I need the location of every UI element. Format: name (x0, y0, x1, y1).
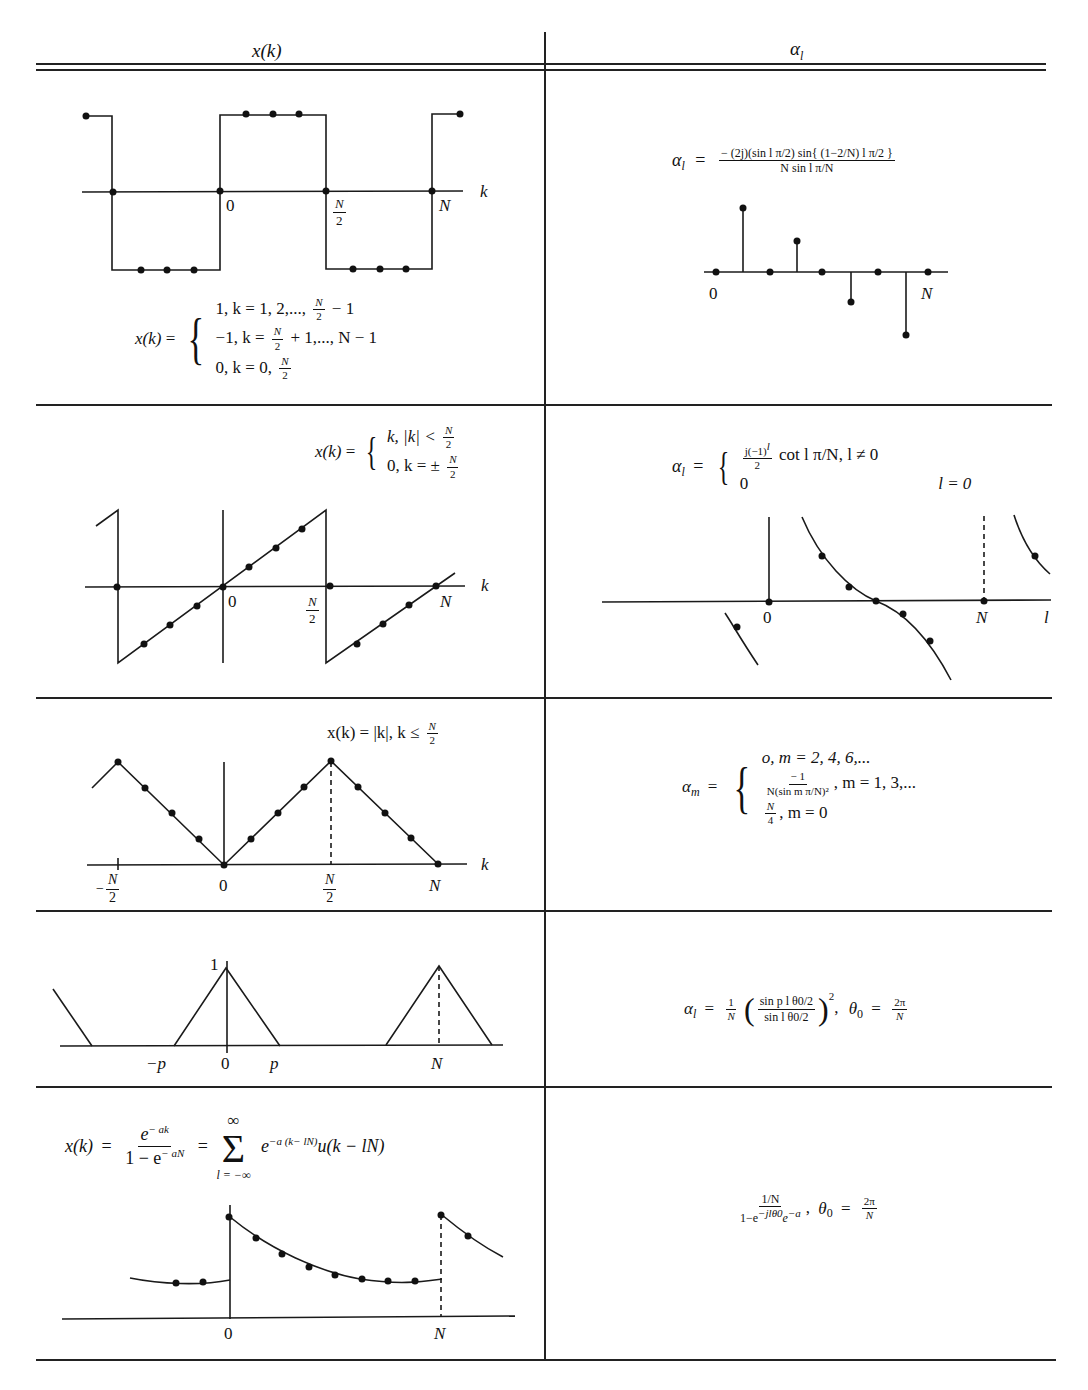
periodic-exponential-figure (0, 0, 1088, 1390)
fourier-coefficients-table: x(k) αl 0 N2 N k x(k) = { 1, k = 1, 2,..… (0, 0, 1088, 1390)
exp-label-n: N (434, 1324, 445, 1344)
r5-alpha-formula: 1/N1−e−jlθ0e−a, θ0 = 2πN (735, 1192, 880, 1226)
exp-label-zero: 0 (224, 1324, 233, 1344)
